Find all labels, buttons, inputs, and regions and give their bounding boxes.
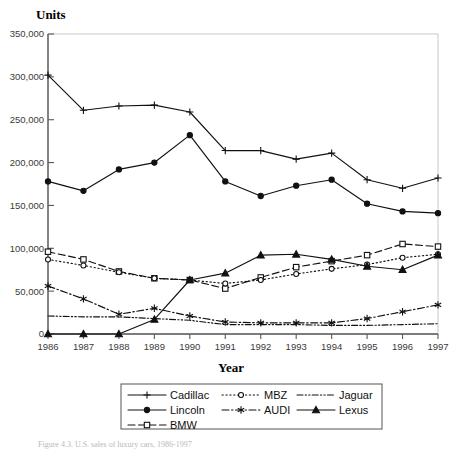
y-axis-title: Units xyxy=(36,7,66,22)
data-point-marker xyxy=(400,241,405,246)
data-point-marker xyxy=(364,252,369,257)
x-tick-label: 1997 xyxy=(427,341,448,352)
data-point-marker xyxy=(187,133,192,138)
data-point-marker xyxy=(435,211,440,216)
x-tick-label: 1991 xyxy=(215,341,236,352)
data-point-marker xyxy=(293,264,298,269)
x-tick-label: 1994 xyxy=(321,341,342,352)
data-point-marker xyxy=(116,270,121,275)
y-tick-label: 250,000 xyxy=(10,114,44,125)
x-tick-label: 1986 xyxy=(37,341,58,352)
data-point-marker xyxy=(144,422,149,427)
legend-label: BMW xyxy=(170,419,198,431)
legend-label: Cadillac xyxy=(170,389,210,401)
y-tick-label: 200,000 xyxy=(10,157,44,168)
data-point-marker xyxy=(116,167,121,172)
data-point-marker xyxy=(81,257,86,262)
y-tick-label: 0 xyxy=(39,328,44,339)
data-point-marker xyxy=(329,177,334,182)
data-point-marker xyxy=(152,160,157,165)
x-tick-label: 1995 xyxy=(357,341,378,352)
luxury-car-sales-line-chart: Units 050,000100,000150,000200,000250,00… xyxy=(0,0,463,452)
figure-caption: Figure 4.3. U.S. sales of luxury cars, 1… xyxy=(38,440,192,449)
data-point-marker xyxy=(294,272,299,277)
data-point-marker xyxy=(435,244,440,249)
data-point-marker xyxy=(223,281,228,286)
y-tick-label: 350,000 xyxy=(10,28,44,39)
data-point-marker xyxy=(223,179,228,184)
y-tick-label: 100,000 xyxy=(10,243,44,254)
x-tick-label: 1993 xyxy=(286,341,307,352)
legend-label: Lexus xyxy=(339,404,369,416)
data-point-marker xyxy=(258,278,263,283)
data-point-marker xyxy=(400,209,405,214)
legend-label: AUDI xyxy=(264,404,290,416)
data-point-marker xyxy=(400,255,405,260)
data-point-marker xyxy=(81,263,86,268)
x-tick-label: 1992 xyxy=(250,341,271,352)
x-tick-label: 1990 xyxy=(179,341,200,352)
data-point-marker xyxy=(144,407,149,412)
y-tick-label: 300,000 xyxy=(10,71,44,82)
legend-label: Lincoln xyxy=(170,404,205,416)
data-point-marker xyxy=(152,276,157,281)
y-tick-label: 150,000 xyxy=(10,200,44,211)
data-point-marker xyxy=(46,257,51,262)
data-point-marker xyxy=(45,249,50,254)
data-point-marker xyxy=(223,286,228,291)
x-tick-label: 1988 xyxy=(108,341,129,352)
legend-label: MBZ xyxy=(264,389,288,401)
x-tick-label: 1987 xyxy=(73,341,94,352)
data-point-marker xyxy=(258,193,263,198)
y-tick-label: 50,000 xyxy=(15,286,44,297)
data-point-marker xyxy=(294,183,299,188)
data-point-marker xyxy=(81,188,86,193)
x-axis-title: Year xyxy=(218,360,244,375)
x-tick-label: 1996 xyxy=(392,341,413,352)
x-tick-label: 1989 xyxy=(144,341,165,352)
data-point-marker xyxy=(239,393,244,398)
data-point-marker xyxy=(364,201,369,206)
data-point-marker xyxy=(45,179,50,184)
data-point-marker xyxy=(329,266,334,271)
legend-label: Jaguar xyxy=(339,389,373,401)
